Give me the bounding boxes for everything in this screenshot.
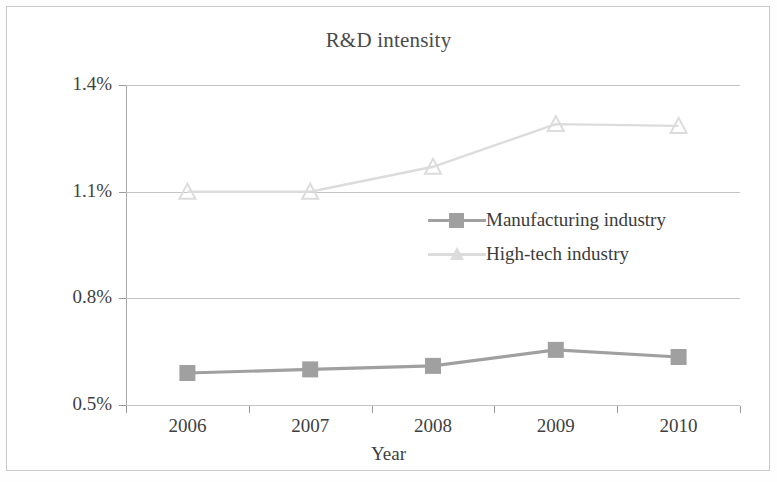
x-axis-tick-label: 2010: [634, 415, 724, 437]
x-axis-tick: [617, 406, 618, 413]
x-axis-tick: [740, 406, 741, 413]
legend-marker-square-icon: [428, 211, 486, 229]
y-axis-tick: [119, 192, 126, 193]
y-axis-tick: [119, 85, 126, 86]
y-axis-tick-label: 0.5%: [40, 394, 112, 413]
legend-item-hightech: High-tech industry: [428, 237, 718, 271]
legend-label-hightech: High-tech industry: [486, 243, 629, 265]
y-axis-tick-label: 1.4%: [40, 74, 112, 93]
x-axis-tick: [494, 406, 495, 413]
x-axis-tick-label: 2006: [142, 415, 232, 437]
gridline: [126, 192, 740, 193]
y-axis-tick: [119, 405, 126, 406]
gridline: [126, 405, 740, 406]
x-axis-tick: [249, 406, 250, 413]
legend-item-manufacturing: Manufacturing industry: [428, 203, 718, 237]
gridline: [126, 85, 740, 86]
y-axis-tick-label: 1.1%: [40, 181, 112, 200]
x-axis-tick: [126, 406, 127, 413]
gridline: [126, 298, 740, 299]
chart-legend: Manufacturing industry High-tech industr…: [428, 203, 718, 271]
x-axis-tick: [372, 406, 373, 413]
legend-label-manufacturing: Manufacturing industry: [486, 209, 666, 231]
y-axis-tick-label: 0.8%: [40, 287, 112, 306]
x-axis-tick-label: 2008: [388, 415, 478, 437]
legend-marker-triangle-icon: [428, 245, 486, 263]
x-axis-tick-label: 2009: [511, 415, 601, 437]
y-axis-line: [126, 85, 127, 406]
chart-title: R&D intensity: [0, 28, 777, 53]
chart-screenshot: R&D intensity 0.5%0.8%1.1%1.4% 200620072…: [0, 0, 777, 482]
x-axis-tick-label: 2007: [265, 415, 355, 437]
x-axis-title: Year: [0, 443, 777, 465]
y-axis-tick: [119, 298, 126, 299]
